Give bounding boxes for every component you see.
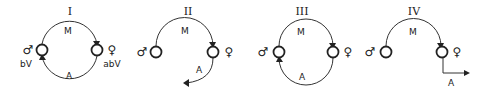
female-node — [92, 45, 103, 56]
male-caption: bV — [20, 59, 33, 69]
m-label: M — [181, 26, 189, 36]
female-node — [208, 47, 219, 58]
a-arrow-path — [443, 58, 466, 73]
male-symbol-icon: ♂ — [137, 45, 148, 59]
panel-2: II M A ♂ ♀ — [137, 5, 234, 87]
male-node — [274, 47, 285, 58]
male-node — [381, 47, 392, 58]
female-symbol-icon: ♀ — [344, 45, 353, 59]
arrowhead-icon — [464, 70, 470, 76]
female-node — [437, 47, 448, 58]
a-label: A — [299, 72, 306, 82]
female-node — [328, 47, 339, 58]
panel-4: IV M A ♂ ♀ — [365, 5, 470, 88]
male-node — [37, 45, 48, 56]
panel-numeral: II — [184, 5, 193, 18]
m-label: M — [297, 27, 305, 37]
panel-numeral: IV — [408, 5, 421, 18]
panel-1: I M A ♂ ♀ bV abV — [20, 5, 121, 81]
female-caption: abV — [103, 59, 121, 69]
male-symbol-icon: ♂ — [258, 45, 269, 59]
m-label: M — [64, 26, 72, 36]
a-label: A — [66, 71, 73, 81]
male-symbol-icon: ♂ — [23, 43, 34, 57]
female-symbol-icon: ♀ — [225, 45, 234, 59]
a-label: A — [196, 65, 203, 75]
m-arrow-path — [279, 19, 333, 46]
diagram-canvas: I M A ♂ ♀ bV abV II M A ♂ ♀ III M A — [0, 0, 488, 92]
female-symbol-icon: ♀ — [453, 45, 462, 59]
arrowhead-icon — [183, 79, 189, 87]
a-label: A — [448, 78, 455, 88]
male-symbol-icon: ♂ — [365, 45, 376, 59]
male-node — [151, 47, 162, 58]
m-label: M — [409, 27, 417, 37]
panel-numeral: I — [68, 5, 72, 18]
panel-3: III M A ♂ ♀ — [258, 5, 353, 85]
a-arrow-path — [279, 58, 333, 85]
female-symbol-icon: ♀ — [108, 43, 117, 57]
panel-numeral: III — [295, 5, 308, 18]
